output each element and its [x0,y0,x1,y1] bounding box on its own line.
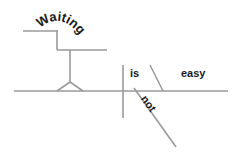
gerund-tripod-left-line [57,82,70,91]
predicate-adjective-slant-line [150,65,163,91]
verb-label: is [130,68,139,79]
adverb-slant-line [134,88,176,147]
gerund-tripod-right-line [70,82,83,91]
sentence-diagram-canvas: Waiting is not easy Waiting not is [0,0,238,155]
predicate-adjective-label: easy [181,68,205,79]
